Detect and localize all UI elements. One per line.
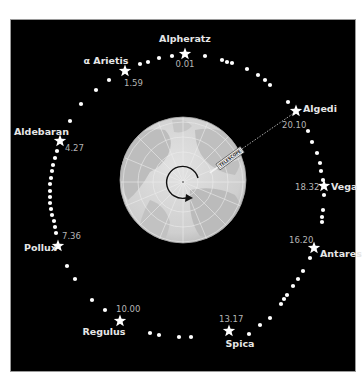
ecliptic-dot [49, 207, 53, 211]
ecliptic-dot [170, 54, 174, 58]
star-ra-alpha-arietis: 1.59 [124, 78, 143, 88]
ecliptic-dot [49, 176, 53, 180]
star-label-aldebaran: Aldebaran [14, 126, 69, 137]
ecliptic-dot [146, 60, 150, 64]
ecliptic-dot [320, 215, 324, 219]
ecliptic-dot [279, 302, 283, 306]
star-label-vega: Vega [331, 181, 358, 192]
ecliptic-dot [157, 333, 161, 337]
ecliptic-dot [285, 293, 289, 297]
star-aldebaran: Aldebaran 4.27 [14, 126, 84, 153]
star-alpha-arietis: α Arietis 1.59 [83, 55, 142, 88]
star-label-regulus: Regulus [83, 326, 126, 337]
ecliptic-dot [50, 169, 54, 173]
ecliptic-dot [308, 256, 312, 260]
ecliptic-dot [189, 335, 193, 339]
ecliptic-dot [306, 129, 310, 133]
star-icon [223, 325, 235, 337]
star-icon [179, 48, 191, 60]
ecliptic-dot [177, 335, 181, 339]
star-icon [119, 65, 131, 77]
ecliptic-dot [220, 58, 224, 62]
star-ra-spica: 13.17 [219, 314, 243, 324]
star-icon [114, 315, 126, 327]
star-label-antares: Antares [320, 248, 362, 259]
star-algedi: Algedi 20.10 [282, 103, 337, 130]
ecliptic-dot [54, 231, 58, 235]
star-ra-alpheratz: 0.01 [176, 59, 195, 69]
ecliptic-dot [50, 213, 54, 217]
ecliptic-dot [310, 140, 314, 144]
star-label-pollux: Pollux [24, 242, 57, 253]
ecliptic-dot [263, 78, 267, 82]
star-label-alpha-arietis: α Arietis [83, 55, 128, 66]
ecliptic-dot [247, 332, 251, 336]
ecliptic-dot [148, 331, 152, 335]
ecliptic-dot [296, 277, 300, 281]
star-ra-algedi: 20.10 [282, 120, 306, 130]
ecliptic-dot [320, 220, 324, 224]
ecliptic-dot [103, 308, 107, 312]
ecliptic-dot [322, 193, 326, 197]
ecliptic-dot [291, 284, 295, 288]
ecliptic-dot [48, 201, 52, 205]
ecliptic-dot [52, 219, 56, 223]
ecliptic-dot [319, 169, 323, 173]
ecliptic-dot [321, 208, 325, 212]
star-label-algedi: Algedi [303, 103, 337, 114]
star-label-alpheratz: Alpheratz [159, 33, 211, 44]
ecliptic-dot [107, 78, 111, 82]
star-ra-pollux: 7.36 [62, 231, 81, 241]
ecliptic-dot [157, 56, 161, 60]
ecliptic-dot [53, 225, 57, 229]
ecliptic-dot [203, 54, 207, 58]
ecliptic-dot [318, 161, 322, 165]
ecliptic-dot [79, 102, 83, 106]
ecliptic-dot [268, 83, 272, 87]
star-vega: Vega 18.32 [295, 180, 358, 193]
star-antares: Antares 16.20 [289, 235, 362, 259]
star-regulus: Regulus 10.00 [83, 304, 141, 337]
star-pollux: Pollux 7.36 [24, 231, 81, 253]
ecliptic-dot [256, 73, 260, 77]
ecliptic-dot [73, 277, 77, 281]
ecliptic-dot [53, 156, 57, 160]
ecliptic-dot [138, 62, 142, 66]
ecliptic-dot [225, 60, 229, 64]
ecliptic-dot [48, 182, 52, 186]
ecliptic-dot [65, 264, 69, 268]
ecliptic-dot [94, 88, 98, 92]
star-label-spica: Spica [226, 338, 255, 349]
ecliptic-dot [51, 163, 55, 167]
star-spica: Spica 13.17 [219, 314, 254, 349]
ecliptic-dot [301, 269, 305, 273]
ecliptic-dot [230, 61, 234, 65]
ecliptic-dot [245, 67, 249, 71]
star-ra-vega: 18.32 [295, 182, 319, 192]
ecliptic-dot [55, 149, 59, 153]
ecliptic-dot [48, 195, 52, 199]
ecliptic-dot [90, 298, 94, 302]
celestial-diagram: TELESCOPE Alpheratz 0.01 α Arietis 1.59 … [0, 0, 362, 384]
ecliptic-dot [315, 151, 319, 155]
star-ra-antares: 16.20 [289, 235, 313, 245]
star-icon [318, 180, 330, 192]
star-alpheratz: Alpheratz 0.01 [159, 33, 211, 69]
ecliptic-dot [286, 100, 290, 104]
ecliptic-dot [48, 189, 52, 193]
star-ra-aldebaran: 4.27 [65, 143, 84, 153]
ecliptic-dot [258, 323, 262, 327]
ecliptic-dot [268, 316, 272, 320]
ecliptic-dot [282, 297, 286, 301]
star-ra-regulus: 10.00 [116, 304, 140, 314]
ecliptic-dot [68, 119, 72, 123]
earth-globe [113, 110, 253, 250]
